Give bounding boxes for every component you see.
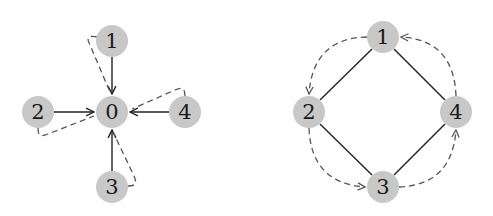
star-node-1: 1: [96, 25, 128, 57]
node-label: 4: [449, 100, 462, 124]
node-label: 1: [105, 29, 118, 53]
star-node-2: 2: [22, 96, 54, 128]
dashed-arc-1-to-2: [309, 37, 367, 94]
star-node-4: 4: [169, 96, 201, 128]
cycle-dashed-edges: [309, 37, 456, 187]
edge-4-1: [394, 49, 445, 100]
cycle-node-4: 4: [440, 96, 472, 128]
node-label: 3: [105, 175, 118, 199]
cycle-solid-edges: [320, 49, 445, 175]
node-label: 2: [302, 100, 315, 124]
star-node-3: 3: [96, 171, 128, 203]
edge-1-2: [320, 49, 372, 100]
cycle-node-1: 1: [367, 21, 399, 53]
node-label: 1: [376, 25, 389, 49]
dashed-arc-3-to-4: [399, 130, 456, 187]
node-label: 2: [31, 100, 44, 124]
diagram-canvas: 0 1 2 3 4: [0, 0, 493, 216]
node-label: 3: [376, 175, 389, 199]
node-label: 0: [105, 100, 118, 124]
edge-2-3: [320, 124, 372, 175]
star-graph: 0 1 2 3 4: [22, 25, 201, 203]
dashed-arc-2-to-3: [309, 128, 365, 187]
cycle-graph: 1 2 3 4: [293, 21, 472, 203]
edge-3-4: [394, 124, 445, 175]
node-label: 4: [178, 100, 191, 124]
dashed-arc-4-to-1: [401, 37, 456, 96]
cycle-node-2: 2: [293, 96, 325, 128]
star-node-0: 0: [96, 96, 128, 128]
cycle-node-3: 3: [367, 171, 399, 203]
